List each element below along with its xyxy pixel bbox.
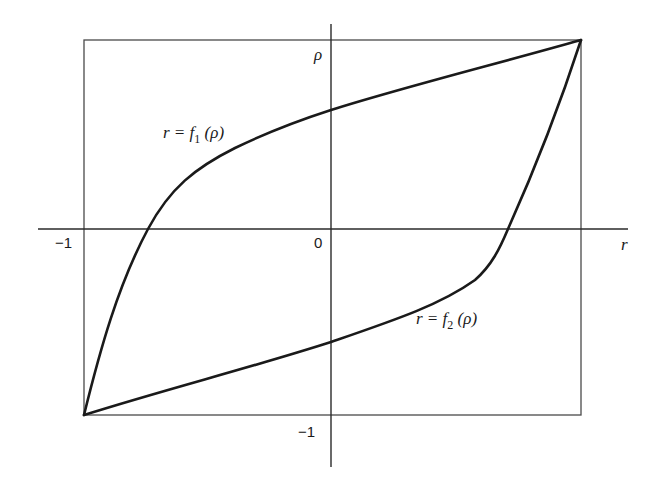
curve-f2-label: r = f2 (ρ) (416, 310, 477, 327)
curve-f2 (84, 40, 581, 415)
rho-axis-label: ρ (314, 46, 322, 63)
diagram-canvas (0, 0, 661, 489)
curve-f1-label-prefix: r = f (163, 123, 194, 142)
r-axis-label: r (621, 236, 628, 253)
r-neg-one-label: −1 (55, 235, 72, 250)
unit-square-frame (84, 40, 581, 415)
rho-neg-one-label: −1 (298, 424, 315, 439)
curve-f1 (84, 40, 581, 415)
curve-f2-label-prefix: r = f (416, 309, 447, 328)
curve-f2-label-suffix: (ρ) (453, 309, 477, 328)
curve-f1-label: r = f1 (ρ) (163, 124, 224, 141)
curve-f1-label-suffix: (ρ) (200, 123, 224, 142)
origin-label: 0 (314, 235, 322, 250)
